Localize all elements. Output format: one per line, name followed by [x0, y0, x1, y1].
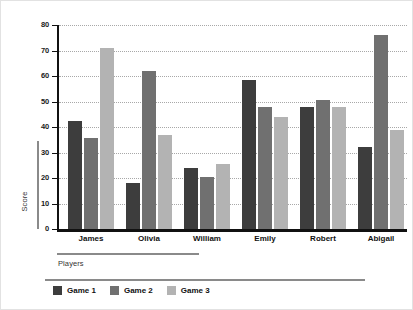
- legend-rule: [45, 279, 365, 281]
- x-axis-baseline: [57, 229, 407, 232]
- bar: [142, 71, 156, 229]
- x-axis-category-label: Abigail: [350, 235, 412, 244]
- legend-swatch-icon: [167, 286, 176, 295]
- bar: [300, 107, 314, 229]
- y-axis-title-rule: [37, 141, 39, 229]
- bar: [184, 168, 198, 229]
- bar: [84, 138, 98, 229]
- bar: [68, 121, 82, 229]
- x-axis-title-rule: [57, 253, 199, 255]
- chart-legend: Game 1Game 2Game 3: [53, 286, 210, 295]
- x-axis-category-label: William: [176, 235, 238, 244]
- y-axis-tick-label: 60: [27, 72, 49, 80]
- bar-chart: 01020304050607080 JamesOliviaWilliamEmil…: [0, 0, 413, 310]
- y-axis-tick-label: 80: [27, 21, 49, 29]
- bar: [358, 147, 372, 229]
- x-axis-category-label: Olivia: [118, 235, 180, 244]
- bar: [316, 100, 330, 229]
- y-axis-tick-label: 70: [27, 47, 49, 55]
- legend-label: Game 1: [67, 287, 96, 295]
- bar: [390, 130, 404, 229]
- bar-group: [68, 25, 114, 229]
- y-axis-tick-label: 40: [27, 123, 49, 131]
- x-axis-title: Players: [58, 259, 84, 268]
- bar-group: [184, 25, 230, 229]
- bar: [126, 183, 140, 229]
- legend-swatch-icon: [53, 286, 62, 295]
- bar-group: [126, 25, 172, 229]
- x-axis-category-label: Robert: [292, 235, 354, 244]
- bar-group: [300, 25, 346, 229]
- x-axis-category-label: James: [60, 235, 122, 244]
- legend-item[interactable]: Game 1: [53, 286, 96, 295]
- legend-label: Game 2: [124, 287, 153, 295]
- bar: [216, 164, 230, 229]
- bar: [274, 117, 288, 229]
- bar-group: [242, 25, 288, 229]
- y-axis-tick-label: 50: [27, 98, 49, 106]
- bar: [200, 177, 214, 229]
- bar: [258, 107, 272, 229]
- y-axis-title: Score: [20, 177, 29, 227]
- x-axis-category-label: Emily: [234, 235, 296, 244]
- bar: [332, 107, 346, 229]
- plot-area: [59, 25, 407, 229]
- bar: [374, 35, 388, 229]
- legend-swatch-icon: [110, 286, 119, 295]
- bar: [242, 80, 256, 229]
- bar: [100, 48, 114, 229]
- legend-label: Game 3: [181, 287, 210, 295]
- bar-group: [358, 25, 404, 229]
- bar: [158, 135, 172, 229]
- legend-item[interactable]: Game 3: [167, 286, 210, 295]
- legend-item[interactable]: Game 2: [110, 286, 153, 295]
